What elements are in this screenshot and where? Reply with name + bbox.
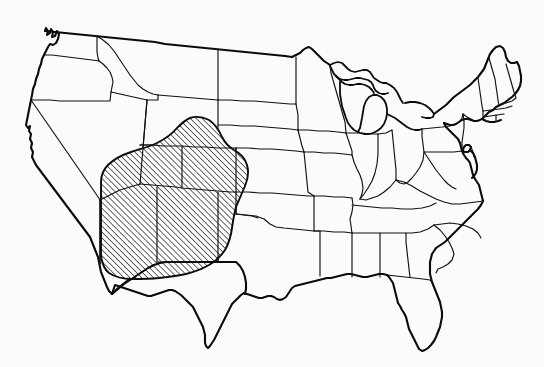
map-canvas	[0, 0, 544, 367]
us-outline-map-figure: Map of the contiguous United States with…	[0, 0, 544, 367]
